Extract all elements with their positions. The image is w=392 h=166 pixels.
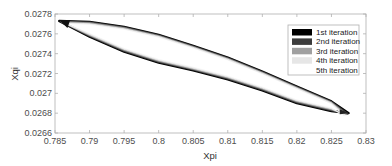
legend-swatch xyxy=(292,29,312,36)
x-tick-label: 0.805 xyxy=(182,136,205,146)
legend-label: 1st iteration xyxy=(316,28,357,37)
legend-swatch xyxy=(292,57,312,64)
y-tick-label: 0.027 xyxy=(29,88,52,98)
y-tick-label: 0.0274 xyxy=(24,49,52,59)
x-tick-label: 0.815 xyxy=(251,136,274,146)
legend-label: 4th iteration xyxy=(316,56,358,65)
y-axis-label: Xqi xyxy=(9,67,20,81)
x-tick-label: 0.795 xyxy=(113,136,136,146)
legend-swatch xyxy=(292,67,312,74)
legend-label: 5th iteration xyxy=(316,66,358,75)
legend-swatch xyxy=(292,38,312,45)
legend-label: 3rd iteration xyxy=(316,47,358,56)
x-axis-label: Xpi xyxy=(203,150,217,161)
x-tick-label: 0.83 xyxy=(357,136,375,146)
y-tick-label: 0.0278 xyxy=(24,9,52,19)
legend-swatch xyxy=(292,48,312,55)
legend-label: 2nd iteration xyxy=(316,37,360,46)
y-tick-label: 0.0268 xyxy=(24,108,52,118)
legend: 1st iteration2nd iteration3rd iteration4… xyxy=(288,25,360,75)
y-tick-label: 0.0266 xyxy=(24,128,52,138)
y-tick-label: 0.0276 xyxy=(24,29,52,39)
x-tick-label: 0.82 xyxy=(288,136,306,146)
x-tick-label: 0.8 xyxy=(152,136,165,146)
x-tick-label: 0.79 xyxy=(81,136,99,146)
y-tick-label: 0.0272 xyxy=(24,69,52,79)
chart: 0.7850.790.7950.80.8050.810.8150.820.825… xyxy=(0,0,392,166)
x-tick-label: 0.825 xyxy=(320,136,343,146)
x-tick-label: 0.81 xyxy=(219,136,237,146)
